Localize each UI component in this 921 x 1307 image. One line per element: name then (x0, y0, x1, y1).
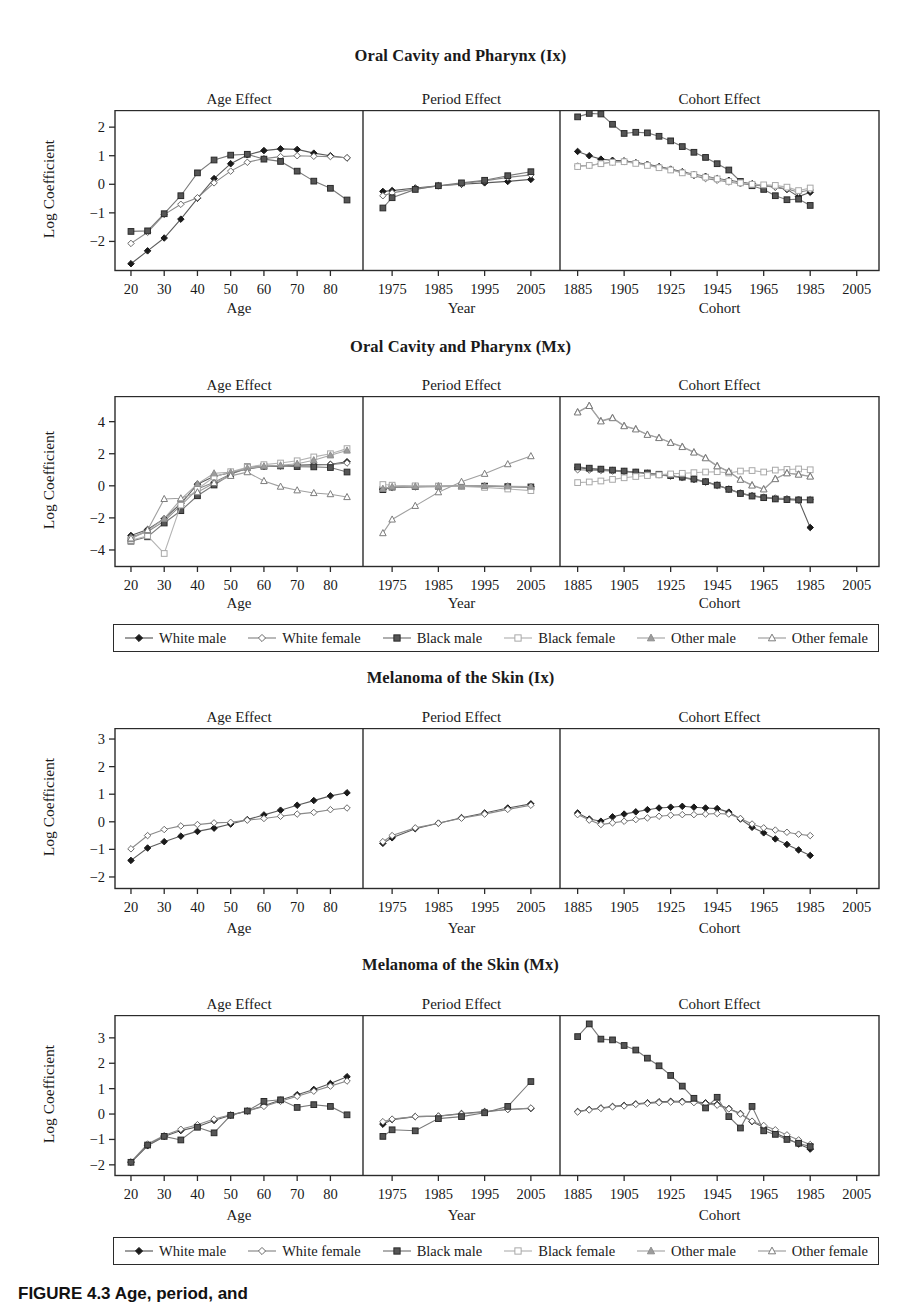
x-axis-label-cohort: Cohort (560, 595, 879, 612)
svg-text:1995: 1995 (470, 281, 499, 297)
x-axis-label-cohort: Cohort (560, 1207, 879, 1224)
chart-plot-area: −4−2024203040506070801975198519952005188… (0, 396, 921, 628)
svg-text:1985: 1985 (424, 1186, 453, 1202)
svg-text:1: 1 (98, 786, 105, 802)
panel-title-cohort-effect: Cohort Effect (560, 706, 879, 728)
svg-text:1925: 1925 (656, 899, 685, 915)
x-axis-label-age: Age (115, 1207, 363, 1224)
panel-title-period-effect: Period Effect (363, 993, 560, 1015)
legend-item-white-female[interactable]: White female (247, 1243, 361, 1260)
svg-text:80: 80 (323, 281, 338, 297)
svg-text:1995: 1995 (470, 577, 499, 593)
chart-legend: White maleWhite femaleBlack maleBlack fe… (113, 624, 879, 652)
open-square-icon (503, 631, 533, 645)
legend-label: Black male (417, 1243, 483, 1260)
panel-title-period-effect: Period Effect (363, 706, 560, 728)
chart-title: Melanoma of the Skin (Ix) (0, 670, 921, 687)
chart-title: Oral Cavity and Pharynx (Mx) (0, 339, 921, 356)
open-diamond-icon (247, 631, 277, 645)
svg-text:0: 0 (98, 176, 105, 192)
legend-item-black-female[interactable]: Black female (503, 1243, 615, 1260)
svg-text:1: 1 (98, 148, 105, 164)
legend-label: Other male (671, 1243, 736, 1260)
svg-text:1985: 1985 (796, 1186, 825, 1202)
svg-text:1985: 1985 (796, 899, 825, 915)
legend-item-white-male[interactable]: White male (124, 1243, 226, 1260)
chart-plot-area: −2−1012320304050607080197519851995200518… (0, 728, 921, 950)
x-axis-label-year: Year (363, 1207, 560, 1224)
svg-text:−2: −2 (90, 233, 105, 249)
svg-text:1965: 1965 (749, 577, 778, 593)
svg-text:1945: 1945 (703, 577, 732, 593)
panel-title-age-effect: Age Effect (115, 88, 363, 110)
svg-text:70: 70 (290, 577, 305, 593)
series-group (380, 1079, 535, 1140)
svg-text:60: 60 (257, 281, 272, 297)
figure-caption: FIGURE 4.3 Age, period, and (18, 1284, 248, 1304)
svg-text:1925: 1925 (656, 281, 685, 297)
x-axis-label-age: Age (115, 920, 363, 937)
svg-text:1995: 1995 (470, 1186, 499, 1202)
legend-item-white-male[interactable]: White male (124, 630, 226, 647)
svg-text:1975: 1975 (378, 281, 407, 297)
svg-text:0: 0 (98, 1106, 105, 1122)
svg-text:70: 70 (290, 281, 305, 297)
series-group (128, 1073, 351, 1165)
chart-legend: White maleWhite femaleBlack maleBlack fe… (113, 1237, 879, 1265)
svg-text:1945: 1945 (703, 899, 732, 915)
svg-text:2: 2 (98, 119, 105, 135)
chart-title: Melanoma of the Skin (Mx) (0, 957, 921, 974)
panel-title-cohort-effect: Cohort Effect (560, 374, 879, 396)
series-group (574, 803, 813, 859)
chart-plot-area: −2−1012320304050607080197519851995200518… (0, 1015, 921, 1237)
legend-label: Black male (417, 630, 483, 647)
chart-title: Oral Cavity and Pharynx (Ix) (0, 48, 921, 65)
legend-item-white-female[interactable]: White female (247, 630, 361, 647)
svg-text:80: 80 (323, 899, 338, 915)
legend-item-black-female[interactable]: Black female (503, 630, 615, 647)
svg-text:−2: −2 (90, 869, 105, 885)
legend-item-other-female[interactable]: Other female (757, 630, 868, 647)
legend-item-other-female[interactable]: Other female (757, 1243, 868, 1260)
panel-title-period-effect: Period Effect (363, 88, 560, 110)
svg-text:2005: 2005 (516, 899, 545, 915)
svg-text:2: 2 (98, 759, 105, 775)
svg-text:60: 60 (257, 577, 272, 593)
svg-text:2005: 2005 (842, 577, 871, 593)
panel-title-period-effect: Period Effect (363, 374, 560, 396)
svg-text:3: 3 (98, 1030, 105, 1046)
filled-triangle-icon (636, 631, 666, 645)
x-axis-label-cohort: Cohort (560, 300, 879, 317)
open-triangle-icon (757, 1244, 787, 1258)
svg-text:1985: 1985 (424, 899, 453, 915)
svg-text:2005: 2005 (516, 281, 545, 297)
svg-text:2005: 2005 (842, 281, 871, 297)
legend-item-black-male[interactable]: Black male (382, 1243, 483, 1260)
svg-text:2005: 2005 (516, 577, 545, 593)
svg-text:70: 70 (290, 1186, 305, 1202)
svg-text:1985: 1985 (796, 577, 825, 593)
svg-text:−1: −1 (90, 205, 105, 221)
svg-text:20: 20 (124, 281, 139, 297)
series-group (128, 146, 351, 267)
legend-item-black-male[interactable]: Black male (382, 630, 483, 647)
legend-item-other-male[interactable]: Other male (636, 1243, 736, 1260)
open-square-icon (503, 1244, 533, 1258)
filled-square-icon (382, 1244, 412, 1258)
svg-text:1885: 1885 (563, 281, 592, 297)
svg-text:−1: −1 (90, 841, 105, 857)
svg-text:1965: 1965 (749, 281, 778, 297)
x-axis-label-year: Year (363, 920, 560, 937)
legend-item-other-male[interactable]: Other male (636, 630, 736, 647)
svg-text:−2: −2 (90, 1157, 105, 1173)
svg-text:2005: 2005 (842, 1186, 871, 1202)
filled-square-icon (382, 631, 412, 645)
open-diamond-icon (247, 1244, 277, 1258)
svg-text:20: 20 (124, 899, 139, 915)
svg-text:1985: 1985 (796, 281, 825, 297)
open-triangle-icon (757, 631, 787, 645)
svg-text:2005: 2005 (842, 899, 871, 915)
svg-text:80: 80 (323, 1186, 338, 1202)
svg-text:−1: −1 (90, 1131, 105, 1147)
legend-label: Black female (538, 1243, 615, 1260)
